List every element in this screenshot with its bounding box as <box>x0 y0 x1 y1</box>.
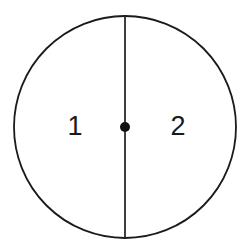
circle-diagram: 1 2 <box>0 0 249 251</box>
region-label-2: 2 <box>170 111 185 141</box>
region-label-1: 1 <box>67 111 82 141</box>
diagram-canvas: 1 2 <box>0 0 249 251</box>
center-point-dot <box>120 122 130 132</box>
